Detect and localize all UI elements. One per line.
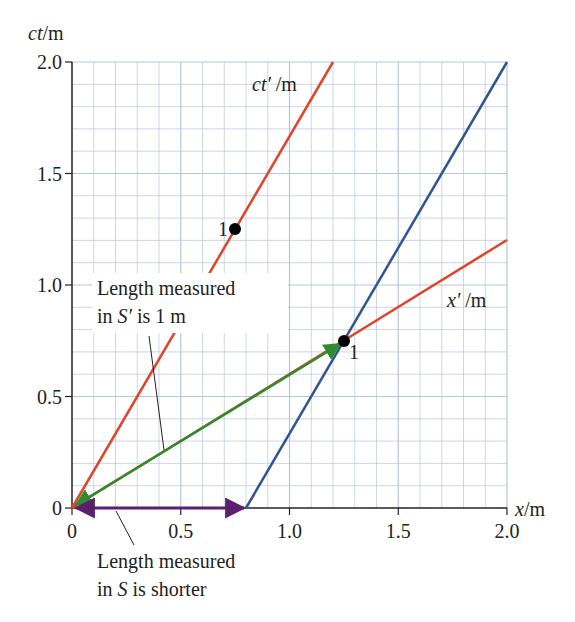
x-tick-label: 1.0	[277, 520, 302, 542]
marker-ct-prime-1	[229, 223, 241, 235]
y-tick-label: 1.0	[37, 274, 62, 296]
y-tick-label: 0	[52, 497, 62, 519]
x-tick-label: 0	[67, 520, 77, 542]
marker-ct-prime-label: 1	[218, 218, 228, 240]
annotation2-line2: in S is shorter	[97, 578, 207, 600]
x-axis-title: x/m	[514, 498, 545, 520]
marker-x-prime-label: 1	[349, 341, 359, 363]
spacetime-diagram: 00.51.01.52.000.51.01.52.0 ct/m x/m 1 1 …	[0, 0, 575, 622]
annotation2-leader	[116, 511, 134, 545]
x-prime-label: x′ /m	[446, 289, 487, 311]
y-tick-label: 0.5	[37, 386, 62, 408]
annotation1-line2: in S′ is 1 m	[97, 305, 186, 327]
annotation1-line1: Length measured	[97, 277, 235, 300]
x-tick-label: 2.0	[495, 520, 520, 542]
ct-prime-label: ct′ /m	[252, 73, 297, 95]
x-tick-label: 1.5	[386, 520, 411, 542]
annotation2-line1: Length measured	[97, 550, 235, 573]
y-tick-label: 1.5	[37, 163, 62, 185]
x-tick-label: 0.5	[168, 520, 193, 542]
y-axis-title: ct/m	[28, 22, 64, 44]
y-tick-label: 2.0	[37, 51, 62, 73]
